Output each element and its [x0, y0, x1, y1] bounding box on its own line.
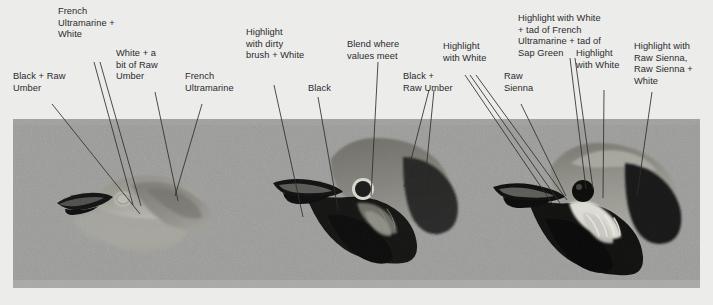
label-highlight-raw-sienna-white: Highlight with Raw Sienna, Raw Sienna + …: [634, 41, 712, 87]
label-black-raw-umber-1: Black + Raw Umber: [13, 71, 97, 94]
label-blend-where-values-meet: Blend where values meet: [347, 39, 429, 62]
photo-panel: [13, 119, 700, 288]
photo-panel-artwork: [13, 119, 700, 288]
label-highlight-with-white-2: Highlight with White: [576, 48, 638, 71]
label-black-raw-umber-2: Black + Raw Umber: [403, 71, 475, 94]
label-white-bit-raw-umber: White + a bit of Raw Umber: [116, 48, 184, 83]
label-raw-sienna: Raw Sienna: [504, 71, 548, 94]
label-highlight-dirty-brush-white: Highlight with dirty brush + White: [246, 27, 328, 62]
annotated-figure: Black + Raw Umber French Ultramarine + W…: [0, 0, 713, 305]
eye-stage-3: [572, 180, 594, 202]
label-black-1: Black: [308, 83, 354, 95]
label-french-ultramarine: French Ultramarine: [185, 71, 259, 94]
label-french-ultramarine-white: French Ultramarine + White: [58, 6, 142, 41]
label-highlight-with-white-1: Highlight with White: [443, 41, 505, 64]
